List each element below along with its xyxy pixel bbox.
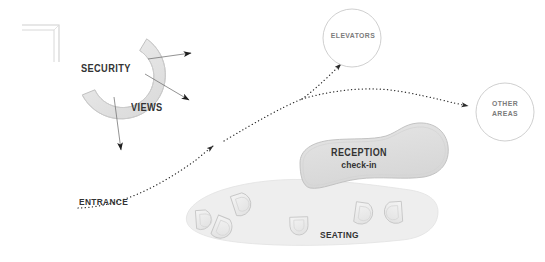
label-entrance: ENTRANCE: [79, 196, 128, 207]
label-views: VIEWS: [131, 101, 163, 113]
label-reception: RECEPTION: [316, 147, 402, 158]
diagram-canvas: [0, 0, 545, 262]
label-security: SECURITY: [81, 62, 131, 74]
seating-chair: [290, 217, 309, 236]
label-other-areas-line2: AREAS: [480, 109, 530, 119]
label-other-areas: OTHER AREAS: [480, 99, 530, 118]
wayfinding-diagram: SECURITY VIEWS ENTRANCE RECEPTION check-…: [0, 0, 545, 262]
label-elevators: ELEVATORS: [325, 31, 381, 40]
label-seating: SEATING: [320, 229, 359, 240]
security-arc: [79, 27, 174, 128]
wall-corner-fragment: [22, 25, 59, 62]
label-other-areas-line1: OTHER: [480, 99, 530, 109]
path-to-other-areas: [302, 89, 468, 106]
path-to-elevators: [302, 64, 341, 99]
view-arrow-south: [114, 97, 121, 150]
label-reception-group: RECEPTION check-in: [311, 147, 407, 170]
label-reception-subtitle: check-in: [316, 159, 402, 170]
